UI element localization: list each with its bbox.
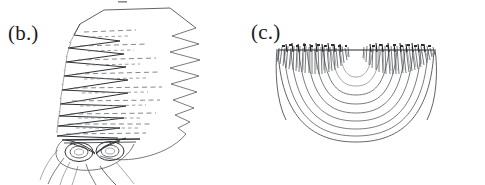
- nested-arcs: [278, 50, 434, 142]
- arc-8: [331, 50, 381, 86]
- panel-c-drawing: [242, 0, 485, 185]
- panel-b-drawing: [0, 0, 242, 185]
- left-eye-loop: [65, 143, 93, 162]
- top-cap-outline: [80, 8, 196, 28]
- figure-root: (b.): [0, 0, 485, 185]
- left-zigzag-shadow: [57, 29, 77, 133]
- figure-panel-b: (b.): [0, 0, 242, 185]
- outer-right-edge: [427, 49, 436, 120]
- figure-panel-c: (c.): [242, 0, 485, 185]
- left-zigzag-edge: [57, 24, 128, 138]
- top-artifact-speck: [118, 1, 127, 3]
- dark-band: [62, 139, 140, 140]
- trailing-strands: [48, 158, 134, 185]
- arc-9: [339, 50, 373, 77]
- right-zigzag-edge: [170, 28, 200, 134]
- lower-left-wisp: [40, 150, 58, 180]
